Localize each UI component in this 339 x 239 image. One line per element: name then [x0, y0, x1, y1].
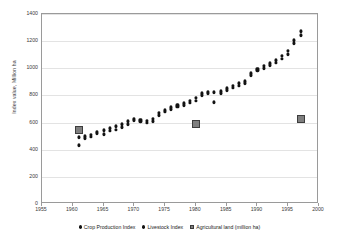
data-point [287, 49, 290, 53]
data-point [102, 128, 105, 132]
data-point [120, 122, 123, 126]
x-tick-mark [256, 203, 257, 206]
data-point [182, 102, 185, 106]
chart-legend: Crop Production IndexLivestock IndexAgri… [0, 224, 339, 230]
data-point [114, 125, 117, 129]
data-point [114, 128, 117, 132]
data-point [200, 92, 203, 96]
x-tick-label: 2000 [303, 206, 333, 212]
legend-square-icon [190, 225, 194, 229]
data-point [281, 54, 284, 58]
gridline [42, 14, 317, 15]
data-point [237, 82, 240, 86]
legend-item: Livestock Index [142, 224, 183, 230]
data-point [219, 89, 222, 93]
data-point [188, 99, 191, 103]
x-tick-mark [72, 203, 73, 206]
plot-area [41, 13, 318, 203]
data-point [225, 86, 228, 90]
data-point [231, 84, 234, 88]
x-tick-mark [103, 203, 104, 206]
data-point [274, 59, 277, 63]
gridline [42, 95, 317, 96]
data-point [102, 132, 105, 136]
x-tick-label: 1995 [272, 206, 302, 212]
data-point [213, 100, 216, 104]
y-axis-label: Index value, Million ha [11, 27, 17, 147]
x-tick-mark [164, 203, 165, 206]
x-tick-label: 1960 [57, 206, 87, 212]
data-point [250, 71, 253, 75]
x-tick-label: 1965 [88, 206, 118, 212]
data-point [75, 126, 83, 134]
gridline [42, 68, 317, 69]
data-point [256, 67, 259, 71]
y-tick-label: 1000 [12, 64, 38, 70]
data-point [151, 117, 154, 121]
data-point [299, 33, 302, 37]
x-tick-mark [41, 203, 42, 206]
x-tick-mark [287, 203, 288, 206]
x-tick-mark [195, 203, 196, 206]
data-point [133, 117, 136, 121]
data-point [170, 106, 173, 110]
data-point [176, 103, 179, 107]
data-point [287, 52, 290, 56]
legend-dot-icon [142, 225, 145, 228]
x-tick-label: 1970 [118, 206, 148, 212]
data-point [77, 135, 80, 139]
x-tick-mark [318, 203, 319, 206]
data-point [192, 120, 200, 128]
data-point [207, 90, 210, 94]
gridline [42, 150, 317, 151]
data-point [244, 79, 247, 83]
legend-item: Agricultural land (million ha) [190, 224, 260, 230]
gridline [42, 123, 317, 124]
x-tick-label: 1955 [26, 206, 56, 212]
data-point [127, 119, 130, 123]
x-tick-label: 1980 [180, 206, 210, 212]
data-point [84, 134, 87, 138]
data-point [108, 126, 111, 130]
data-point [77, 144, 80, 148]
legend-item-label: Crop Production Index [84, 224, 136, 230]
data-point [299, 30, 302, 34]
gridline [42, 177, 317, 178]
chart-figure: Index value, Million ha 0200400600800100… [0, 0, 339, 239]
data-point [96, 130, 99, 134]
x-tick-label: 1975 [149, 206, 179, 212]
legend-item-label: Agricultural land (million ha) [196, 224, 260, 230]
data-point [120, 126, 123, 130]
data-point [268, 61, 271, 65]
data-point [293, 39, 296, 43]
data-point [194, 96, 197, 100]
data-point [213, 91, 216, 95]
y-tick-label: 200 [12, 173, 38, 179]
legend-item-label: Livestock Index [147, 224, 183, 230]
y-tick-label: 1200 [12, 37, 38, 43]
legend-dot-icon [79, 225, 82, 228]
x-tick-label: 1990 [241, 206, 271, 212]
x-tick-label: 1985 [211, 206, 241, 212]
data-point [297, 115, 305, 123]
data-point [90, 133, 93, 137]
legend-item: Crop Production Index [79, 224, 136, 230]
data-point [139, 118, 142, 122]
data-point [157, 111, 160, 115]
y-tick-label: 1400 [12, 10, 38, 16]
data-point [145, 119, 148, 123]
gridline [42, 41, 317, 42]
y-tick-label: 400 [12, 146, 38, 152]
y-tick-label: 600 [12, 119, 38, 125]
x-tick-mark [133, 203, 134, 206]
x-tick-mark [226, 203, 227, 206]
y-tick-label: 800 [12, 91, 38, 97]
data-point [262, 64, 265, 68]
data-point [164, 108, 167, 112]
